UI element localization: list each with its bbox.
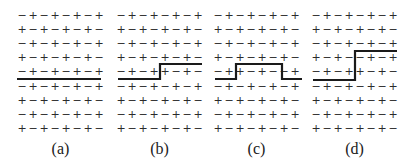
minus-sign: − bbox=[333, 9, 342, 22]
minus-sign: − bbox=[246, 51, 255, 64]
plus-sign: + bbox=[333, 122, 342, 135]
plus-sign: + bbox=[388, 80, 397, 93]
minus-sign: − bbox=[193, 23, 202, 36]
plus-sign: + bbox=[83, 122, 92, 135]
minus-sign: − bbox=[39, 80, 48, 93]
plus-sign: + bbox=[322, 9, 331, 22]
minus-sign: − bbox=[290, 122, 299, 135]
plus-sign: + bbox=[127, 37, 136, 50]
plus-sign: + bbox=[50, 65, 59, 78]
plus-sign: + bbox=[311, 122, 320, 135]
minus-sign: − bbox=[366, 23, 375, 36]
plus-sign: + bbox=[366, 9, 375, 22]
minus-sign: − bbox=[333, 108, 342, 121]
plus-sign: + bbox=[268, 108, 277, 121]
plus-sign: + bbox=[344, 65, 353, 78]
minus-sign: − bbox=[171, 23, 180, 36]
plus-sign: + bbox=[28, 37, 37, 50]
minus-sign: − bbox=[83, 9, 92, 22]
plus-sign: + bbox=[171, 80, 180, 93]
plus-sign: + bbox=[61, 51, 70, 64]
minus-sign: − bbox=[268, 23, 277, 36]
minus-sign: − bbox=[94, 51, 103, 64]
panel-d: −+−+−+−++−+−+−+−−+−+−+−++−+−−+−+−+−++−+−… bbox=[311, 9, 397, 158]
minus-sign: − bbox=[193, 94, 202, 107]
minus-sign: − bbox=[355, 51, 364, 64]
plus-sign: + bbox=[193, 80, 202, 93]
plus-sign: + bbox=[182, 94, 191, 107]
minus-sign: − bbox=[61, 37, 70, 50]
plus-sign: + bbox=[366, 37, 375, 50]
minus-sign: − bbox=[138, 37, 147, 50]
plus-sign: + bbox=[138, 122, 147, 135]
minus-sign: − bbox=[160, 80, 169, 93]
minus-sign: − bbox=[344, 94, 353, 107]
plus-sign: + bbox=[50, 37, 59, 50]
minus-sign: − bbox=[72, 51, 81, 64]
panel-b: −+−+−+−++−+−+−+−−+−+−+−++−+−+−+−−+−++−+−… bbox=[116, 9, 202, 158]
plus-sign: + bbox=[127, 65, 136, 78]
plus-sign: + bbox=[17, 23, 26, 36]
minus-sign: − bbox=[116, 37, 125, 50]
plus-sign: + bbox=[377, 23, 386, 36]
plus-sign: + bbox=[290, 80, 299, 93]
plus-sign: + bbox=[138, 94, 147, 107]
minus-sign: − bbox=[17, 108, 26, 121]
minus-sign: − bbox=[39, 9, 48, 22]
minus-sign: − bbox=[355, 80, 364, 93]
minus-sign: − bbox=[279, 108, 288, 121]
plus-sign: + bbox=[171, 108, 180, 121]
plus-sign: + bbox=[72, 37, 81, 50]
minus-sign: − bbox=[182, 9, 191, 22]
plus-sign: + bbox=[279, 122, 288, 135]
plus-sign: + bbox=[160, 65, 169, 78]
plus-sign: + bbox=[322, 65, 331, 78]
plus-sign: + bbox=[193, 108, 202, 121]
plus-sign: + bbox=[246, 80, 255, 93]
plus-sign: + bbox=[182, 51, 191, 64]
minus-sign: − bbox=[235, 108, 244, 121]
minus-sign: − bbox=[138, 65, 147, 78]
minus-sign: − bbox=[344, 23, 353, 36]
plus-sign: + bbox=[61, 23, 70, 36]
plus-sign: + bbox=[246, 108, 255, 121]
minus-sign: − bbox=[127, 23, 136, 36]
minus-sign: − bbox=[311, 108, 320, 121]
plus-sign: + bbox=[290, 9, 299, 22]
plus-sign: + bbox=[127, 9, 136, 22]
minus-sign: − bbox=[366, 94, 375, 107]
plus-sign: + bbox=[290, 108, 299, 121]
plus-sign: + bbox=[17, 94, 26, 107]
plus-sign: + bbox=[333, 94, 342, 107]
plus-sign: + bbox=[344, 9, 353, 22]
plus-sign: + bbox=[268, 37, 277, 50]
plus-sign: + bbox=[388, 37, 397, 50]
minus-sign: − bbox=[149, 51, 158, 64]
minus-sign: − bbox=[61, 65, 70, 78]
plus-sign: + bbox=[366, 51, 375, 64]
minus-sign: − bbox=[224, 94, 233, 107]
plus-sign: + bbox=[28, 9, 37, 22]
plus-sign: + bbox=[388, 108, 397, 121]
minus-sign: − bbox=[235, 9, 244, 22]
minus-sign: − bbox=[39, 37, 48, 50]
plus-sign: + bbox=[39, 51, 48, 64]
minus-sign: − bbox=[127, 94, 136, 107]
plus-sign: + bbox=[268, 9, 277, 22]
minus-sign: − bbox=[193, 51, 202, 64]
minus-sign: − bbox=[246, 122, 255, 135]
minus-sign: − bbox=[149, 122, 158, 135]
plus-sign: + bbox=[257, 122, 266, 135]
plus-sign: + bbox=[94, 65, 103, 78]
plus-sign: + bbox=[160, 23, 169, 36]
plus-sign: + bbox=[17, 122, 26, 135]
plus-sign: + bbox=[171, 37, 180, 50]
minus-sign: − bbox=[333, 65, 342, 78]
plus-sign: + bbox=[83, 23, 92, 36]
plus-sign: + bbox=[149, 37, 158, 50]
minus-sign: − bbox=[257, 9, 266, 22]
plus-sign: + bbox=[193, 37, 202, 50]
minus-sign: − bbox=[83, 37, 92, 50]
minus-sign: − bbox=[138, 9, 147, 22]
plus-sign: + bbox=[333, 51, 342, 64]
